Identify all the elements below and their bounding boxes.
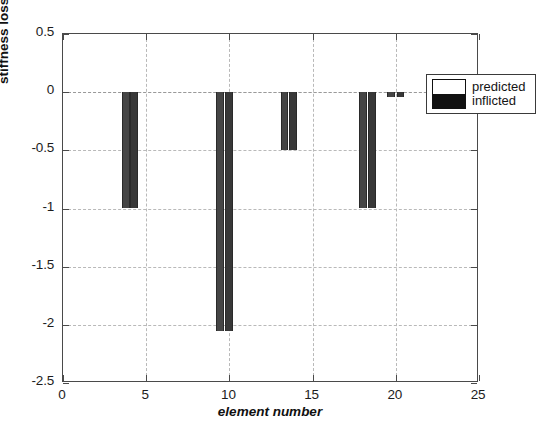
plot-area: predicted inflicted: [62, 33, 478, 382]
x-tick-mark-top: [313, 34, 314, 40]
x-axis-title: element number: [62, 404, 478, 419]
y-tick-mark: [63, 150, 69, 151]
legend-labels: predicted inflicted: [472, 80, 525, 108]
x-tick-mark: [313, 375, 314, 381]
y-tick-mark-right: [471, 34, 477, 35]
x-tick-mark-top: [146, 34, 147, 40]
x-tick-mark: [146, 375, 147, 381]
y-tick-mark-right: [471, 150, 477, 151]
bar-predicted: [216, 92, 223, 330]
gridline-horizontal: [63, 209, 477, 210]
y-tick-mark-right: [471, 325, 477, 326]
bar-inflicted: [368, 92, 375, 208]
y-tick-mark-right: [471, 267, 477, 268]
gridline-vertical: [396, 34, 397, 381]
bar-predicted: [359, 92, 366, 208]
y-tick-label: 0.5: [8, 24, 54, 39]
x-tick-label: 0: [42, 387, 82, 402]
x-tick-mark-top: [63, 34, 64, 40]
gridline-horizontal: [63, 267, 477, 268]
x-tick-mark: [63, 375, 64, 381]
x-tick-mark: [229, 375, 230, 381]
y-tick-mark: [63, 325, 69, 326]
bar-predicted: [122, 92, 129, 208]
bar-inflicted: [225, 92, 232, 330]
legend-label-predicted: predicted: [472, 80, 525, 94]
y-tick-label: -1: [8, 199, 54, 214]
y-tick-mark-right: [471, 209, 477, 210]
bar-predicted: [387, 92, 394, 97]
x-tick-mark-top: [396, 34, 397, 40]
y-tick-label: -2.5: [8, 373, 54, 388]
y-axis-title: stiffness loss Nm: [0, 0, 11, 118]
x-tick-mark-top: [229, 34, 230, 40]
bar-inflicted: [289, 92, 296, 150]
y-tick-mark: [63, 92, 69, 93]
x-tick-label: 15: [292, 387, 332, 402]
gridline-vertical: [146, 34, 147, 381]
x-tick-mark: [479, 375, 480, 381]
x-tick-label: 5: [125, 387, 165, 402]
y-tick-mark: [63, 267, 69, 268]
x-tick-label: 25: [458, 387, 498, 402]
bar-inflicted: [130, 92, 137, 208]
y-tick-label: 0: [8, 82, 54, 97]
gridline-vertical: [313, 34, 314, 381]
y-tick-mark: [63, 209, 69, 210]
x-tick-label: 20: [375, 387, 415, 402]
bar-inflicted: [397, 92, 404, 97]
y-tick-label: -0.5: [8, 140, 54, 155]
gridline-horizontal: [63, 325, 477, 326]
legend-swatch-icon: [432, 79, 466, 109]
legend-label-inflicted: inflicted: [472, 94, 525, 108]
y-tick-mark-right: [471, 383, 477, 384]
legend-swatch-inflicted: [433, 94, 465, 108]
legend-swatch-predicted: [433, 80, 465, 94]
y-tick-mark: [63, 383, 69, 384]
legend-inner: predicted inflicted: [432, 79, 530, 109]
x-tick-label: 10: [208, 387, 248, 402]
y-tick-label: -1.5: [8, 257, 54, 272]
y-tick-label: -2: [8, 315, 54, 330]
x-tick-mark-top: [479, 34, 480, 40]
x-tick-mark: [396, 375, 397, 381]
legend: predicted inflicted: [426, 74, 536, 114]
bar-predicted: [281, 92, 288, 150]
